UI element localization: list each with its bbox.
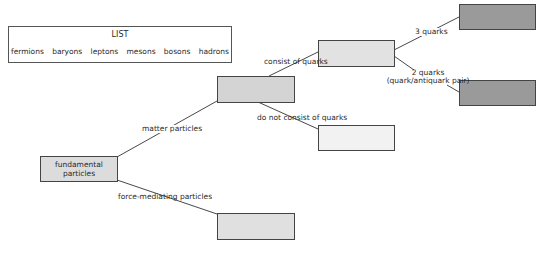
drop-target-force-mediating[interactable] (217, 213, 295, 240)
edge-label-consist-of-quarks: consist of quarks (264, 58, 328, 66)
edge-label-force-mediating: force-mediating particles (118, 193, 212, 201)
node-label: fundamental particles (41, 160, 117, 178)
list-title: LIST (9, 30, 231, 39)
drop-target-three-quarks[interactable] (459, 4, 536, 30)
edge-label-three-quarks: 3 quarks (415, 28, 448, 36)
edge-label-two-quarks: 2 quarks (quark/antiquark pair) (380, 69, 476, 86)
list-item-baryons[interactable]: baryons (52, 47, 82, 56)
drop-target-no-quarks[interactable] (318, 125, 395, 151)
list-item-mesons[interactable]: mesons (127, 47, 156, 56)
edge-label-do-not-consist: do not consist of quarks (257, 114, 347, 122)
list-items: fermions baryons leptons mesons bosons h… (11, 47, 229, 56)
list-item-fermions[interactable]: fermions (11, 47, 44, 56)
list-item-bosons[interactable]: bosons (164, 47, 191, 56)
drop-target-consist-of-quarks[interactable] (318, 40, 395, 67)
list-item-hadrons[interactable]: hadrons (199, 47, 229, 56)
drop-target-matter-particles[interactable] (217, 76, 295, 103)
edge-label-two-quarks-line2: (quark/antiquark pair) (380, 77, 476, 85)
node-fundamental-particles: fundamental particles (40, 156, 118, 182)
particle-list-box: LIST fermions baryons leptons mesons bos… (8, 26, 232, 63)
list-item-leptons[interactable]: leptons (91, 47, 119, 56)
edge-label-matter-particles: matter particles (142, 125, 202, 133)
